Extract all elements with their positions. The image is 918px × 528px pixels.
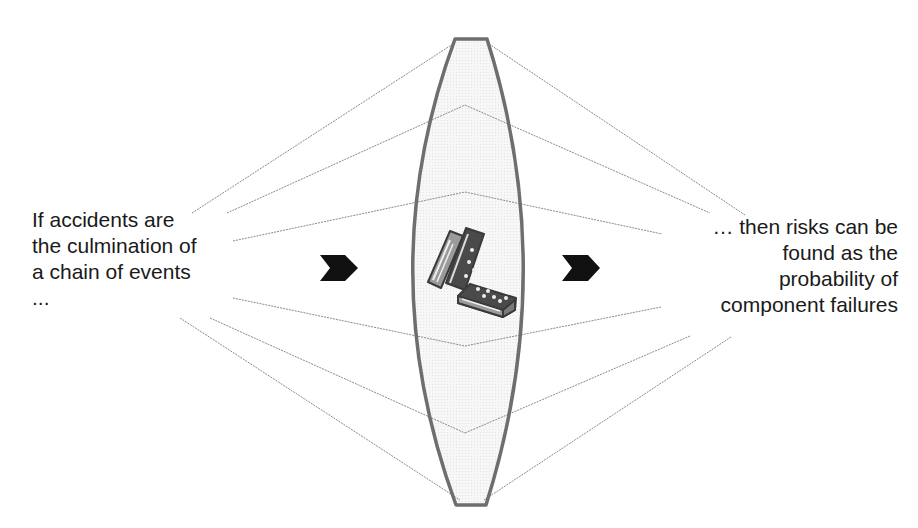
conclusion-line: … then risks can be bbox=[712, 214, 898, 240]
conclusion-text: … then risks can be found as the probabi… bbox=[712, 214, 898, 318]
premise-line: If accidents are bbox=[32, 207, 197, 233]
premise-text: If accidents are the culmination of a ch… bbox=[32, 207, 197, 311]
arrow-right-icon bbox=[562, 255, 600, 281]
conclusion-line: found as the bbox=[712, 240, 898, 266]
conclusion-line: probability of bbox=[712, 266, 898, 292]
premise-line: the culmination of bbox=[32, 233, 197, 259]
premise-line: ... bbox=[32, 285, 197, 311]
arrow-right-icon bbox=[320, 255, 358, 281]
premise-line: a chain of events bbox=[32, 259, 197, 285]
conclusion-line: component failures bbox=[712, 292, 898, 318]
